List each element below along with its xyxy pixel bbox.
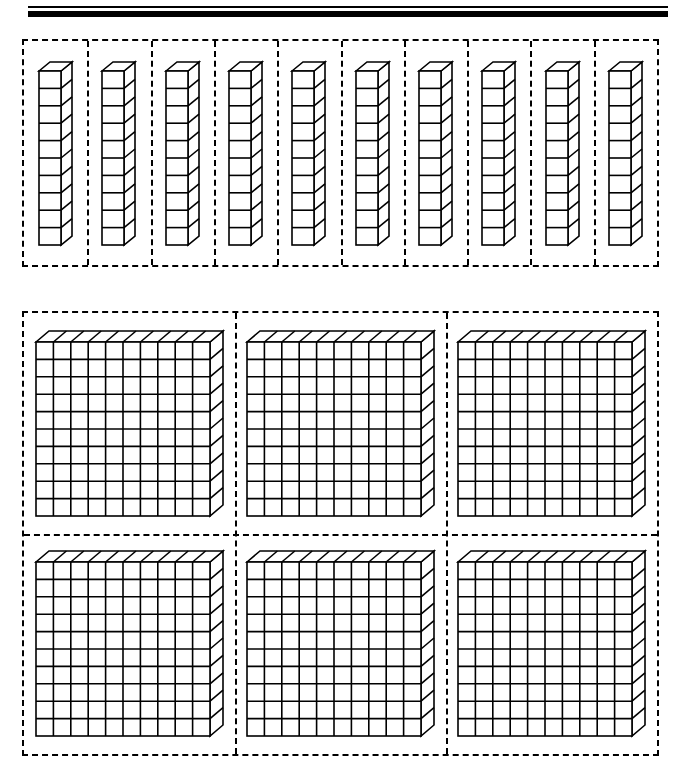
flat-cell[interactable]: [24, 534, 235, 755]
hundreds-flats-container: [22, 311, 659, 756]
hundred-flat-block[interactable]: [245, 549, 436, 738]
tens-rods-container: [22, 39, 659, 267]
rod-cell[interactable]: [594, 41, 657, 265]
thick-rule-bar: [28, 11, 668, 17]
hundred-flat-block[interactable]: [245, 329, 436, 518]
ten-rod-block[interactable]: [100, 60, 137, 247]
flat-cell[interactable]: [446, 313, 657, 534]
flat-cell[interactable]: [24, 313, 235, 534]
ten-rod-block[interactable]: [290, 60, 327, 247]
double-rule-divider: [28, 6, 668, 20]
flat-cell[interactable]: [446, 534, 657, 755]
rod-cell[interactable]: [404, 41, 467, 265]
rod-cell[interactable]: [277, 41, 340, 265]
thin-rule-line: [28, 6, 668, 8]
rod-cell[interactable]: [341, 41, 404, 265]
ten-rod-block[interactable]: [164, 60, 201, 247]
rod-cell[interactable]: [151, 41, 214, 265]
ten-rod-block[interactable]: [37, 60, 74, 247]
ten-rod-block[interactable]: [227, 60, 264, 247]
hundred-flat-block[interactable]: [456, 329, 647, 518]
rod-cell[interactable]: [24, 41, 87, 265]
hundred-flat-block[interactable]: [34, 329, 225, 518]
worksheet-page: [0, 0, 680, 764]
rod-cell[interactable]: [467, 41, 530, 265]
ten-rod-block[interactable]: [480, 60, 517, 247]
ten-rod-block[interactable]: [607, 60, 644, 247]
rod-cell[interactable]: [214, 41, 277, 265]
ten-rod-block[interactable]: [544, 60, 581, 247]
ten-rod-block[interactable]: [417, 60, 454, 247]
flat-cell[interactable]: [235, 313, 446, 534]
ten-rod-block[interactable]: [354, 60, 391, 247]
rod-cell[interactable]: [87, 41, 150, 265]
hundred-flat-block[interactable]: [456, 549, 647, 738]
flat-cell[interactable]: [235, 534, 446, 755]
hundred-flat-block[interactable]: [34, 549, 225, 738]
rod-cell[interactable]: [530, 41, 593, 265]
